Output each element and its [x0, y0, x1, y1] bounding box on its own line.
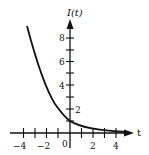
y-tick-label-4: 4: [59, 81, 65, 91]
x-axis-arrow-icon: [124, 130, 134, 137]
y-axis-arrow-icon: [67, 19, 74, 29]
x-tick-label-neg2: −2: [37, 141, 50, 151]
x-tick-label-2: 2: [90, 141, 96, 151]
decay-curve: [27, 26, 128, 132]
decay-chart: I(t) t −4 −2 0 2 4 2 4 6 8: [0, 0, 149, 155]
x-tick-label-4: 4: [113, 141, 119, 151]
x-tick-label-neg4: −4: [13, 141, 27, 151]
x-axis-label: t: [137, 127, 141, 138]
y-tick-label-6: 6: [59, 57, 65, 67]
y-tick-label-8: 8: [59, 33, 65, 43]
origin-label: 0: [62, 139, 68, 149]
y-tick-label-2: 2: [75, 105, 81, 115]
y-axis-label: I(t): [66, 7, 83, 18]
